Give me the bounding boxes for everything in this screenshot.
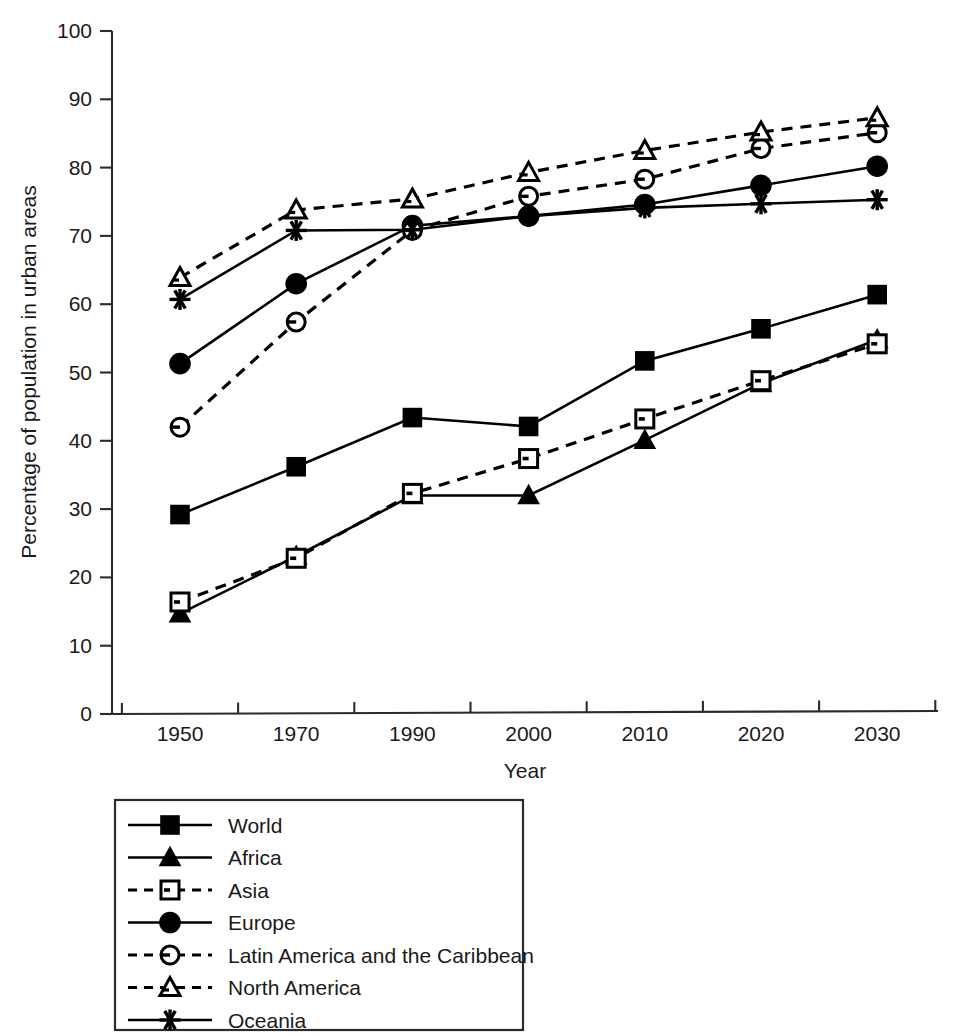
legend-item-label: North America (228, 976, 361, 999)
legend-item-label: Europe (228, 911, 296, 934)
y-tick-label: 70 (69, 224, 92, 247)
marker-open-square-bar (639, 417, 645, 421)
marker-filled-square (287, 458, 305, 476)
marker-filled-square (636, 352, 654, 370)
marker-filled-square (868, 286, 886, 304)
legend-item-label: Asia (228, 879, 269, 902)
legend-item-label: Latin America and the Caribbean (228, 944, 534, 967)
marker-open-square-bar (290, 556, 296, 560)
y-tick-label: 90 (69, 87, 92, 110)
y-tick-label: 20 (69, 565, 92, 588)
marker-open-square-bar (174, 600, 180, 604)
marker-filled-circle (170, 354, 190, 374)
marker-open-square-bar (755, 379, 761, 383)
x-tick-label: 2000 (505, 722, 552, 745)
y-tick-label: 40 (69, 429, 92, 452)
legend-item-label: World (228, 814, 282, 837)
line-chart-canvas: 0102030405060708090100 Percentage of pop… (0, 0, 965, 1036)
y-tick-label: 80 (69, 156, 92, 179)
marker-open-square-bar (406, 492, 412, 496)
legend-item-label: Oceania (228, 1009, 307, 1032)
marker-filled-square (171, 506, 189, 524)
marker-filled-circle (160, 913, 180, 933)
y-tick-label: 0 (80, 702, 92, 725)
marker-filled-square (161, 816, 179, 834)
chart-figure: 0102030405060708090100 Percentage of pop… (0, 0, 965, 1036)
y-axis-title: Percentage of population in urban areas (17, 185, 40, 559)
chart-background (0, 0, 965, 1036)
legend-item-label: Africa (228, 846, 282, 869)
x-tick-label: 2030 (854, 722, 901, 745)
x-tick-label: 2010 (621, 722, 668, 745)
marker-filled-square (752, 320, 770, 338)
y-tick-label: 100 (57, 19, 92, 42)
marker-open-square-bar (871, 342, 877, 346)
marker-open-square-bar (523, 457, 529, 461)
y-tick-label: 50 (69, 361, 92, 384)
marker-filled-square (403, 409, 421, 427)
marker-filled-square (520, 417, 538, 435)
x-tick-label: 2020 (738, 722, 785, 745)
x-tick-label: 1970 (273, 722, 320, 745)
y-tick-label: 10 (69, 634, 92, 657)
marker-filled-circle (286, 274, 306, 294)
y-tick-label: 30 (69, 497, 92, 520)
x-axis-title: Year (504, 759, 546, 782)
marker-filled-circle (867, 156, 887, 176)
marker-filled-circle (751, 175, 771, 195)
x-tick-label: 1990 (389, 722, 436, 745)
y-tick-label: 60 (69, 292, 92, 315)
x-tick-label: 1950 (157, 722, 204, 745)
marker-open-square-bar (164, 888, 170, 892)
